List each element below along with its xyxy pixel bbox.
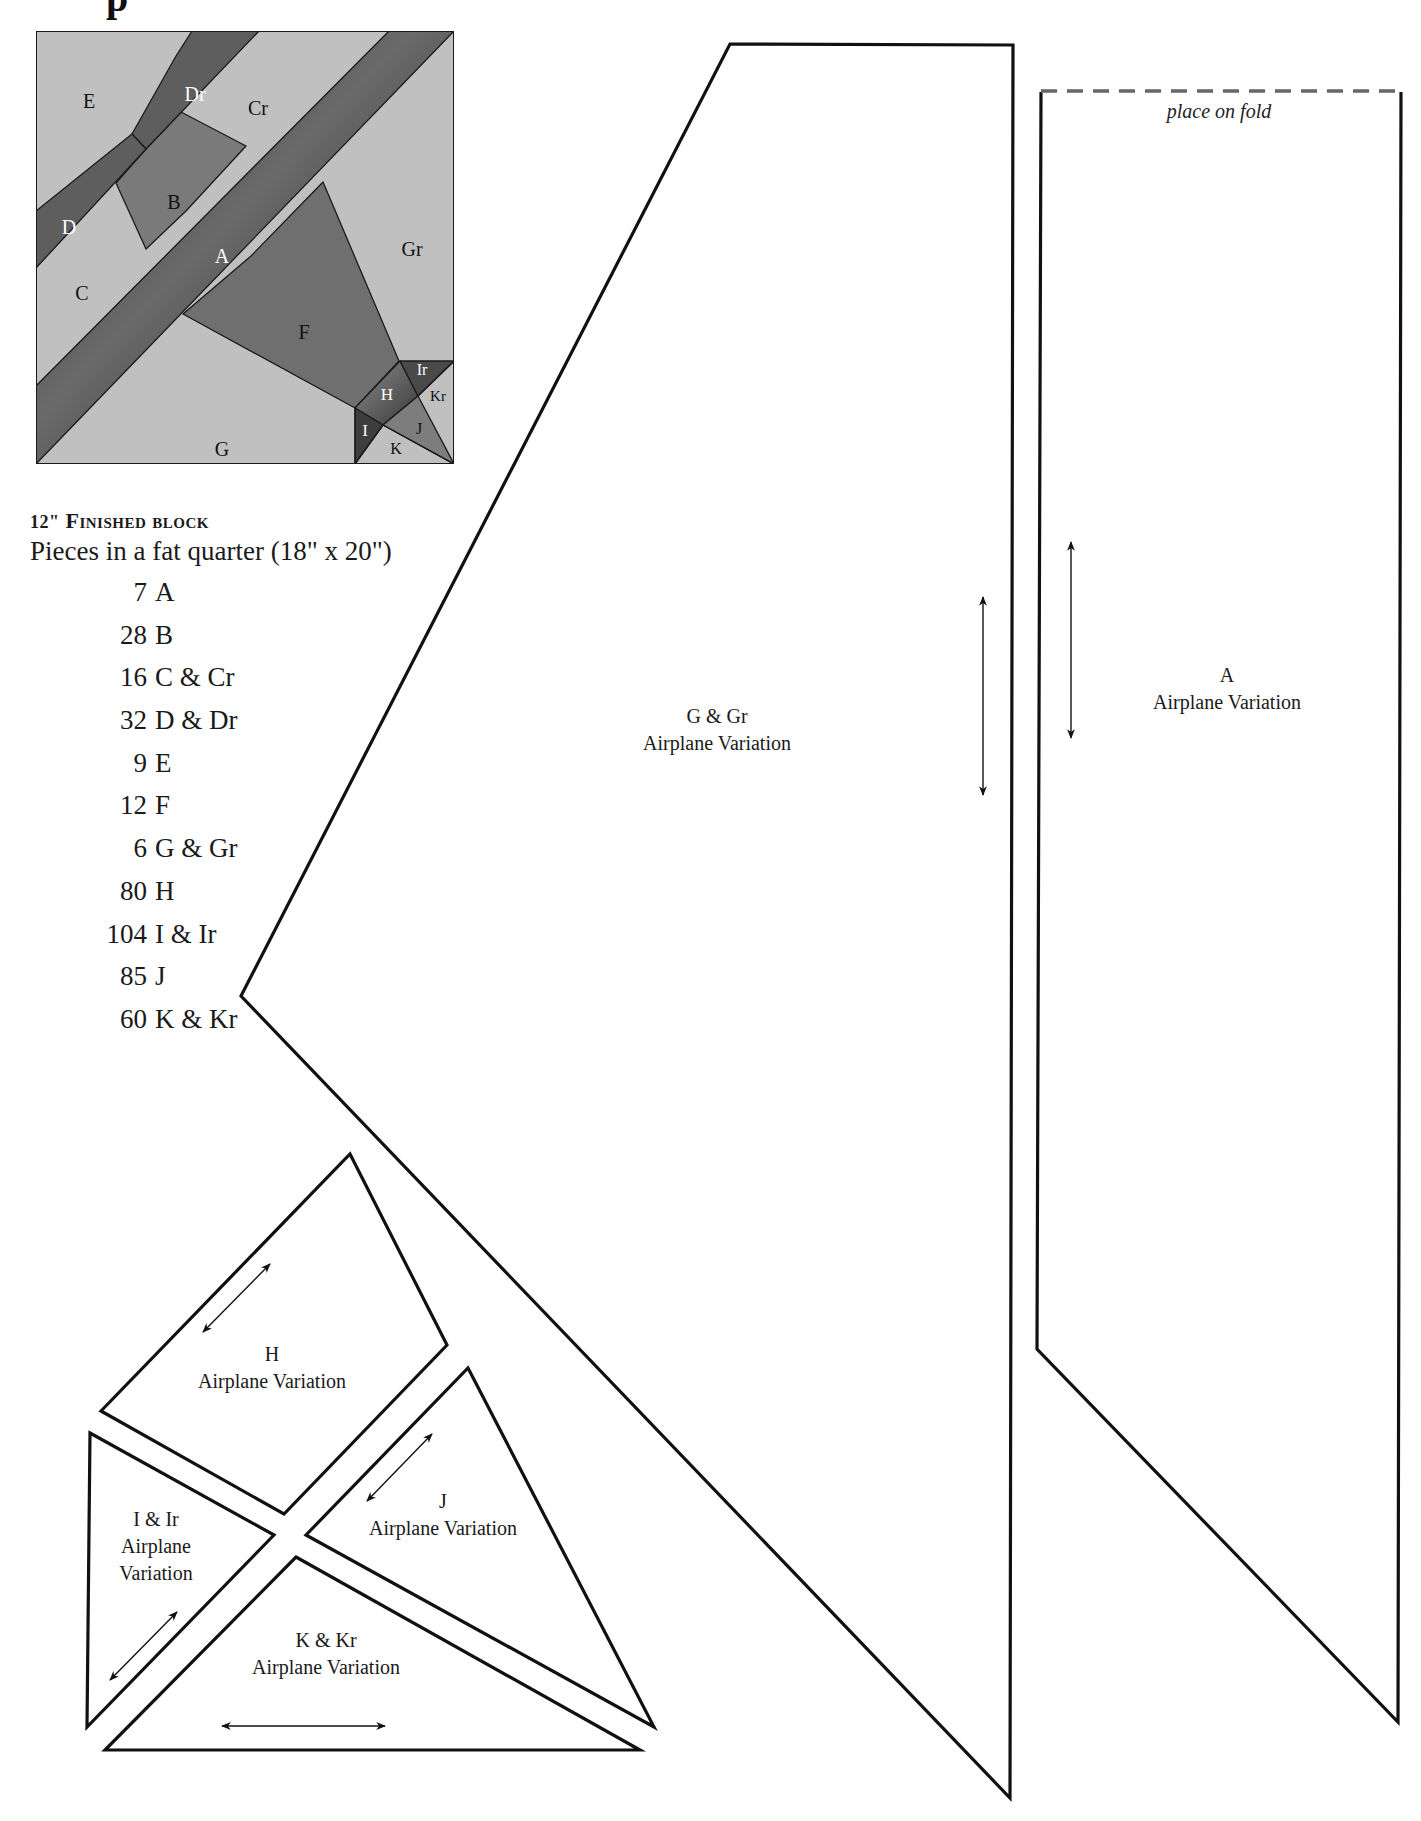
pattern-K-label: K & Kr Airplane Variation [252, 1627, 400, 1681]
label-D: D [62, 216, 76, 238]
list-item: 85J [30, 955, 392, 998]
label-H: H [381, 385, 393, 404]
pattern-H-outline [101, 1154, 447, 1514]
list-item: 28B [30, 614, 392, 657]
list-item: 12F [30, 784, 392, 827]
label-K: K [390, 440, 402, 457]
block-size-heading: 12" Finished block [30, 508, 392, 534]
pattern-A-outline [1037, 92, 1401, 1722]
list-item: 16C & Cr [30, 656, 392, 699]
label-G: G [215, 438, 229, 460]
pattern-H-label: H Airplane Variation [198, 1341, 346, 1395]
label-Cr: Cr [248, 97, 268, 119]
list-item: 7A [30, 571, 392, 614]
pattern-I-label: I & Ir Airplane Variation [119, 1506, 192, 1587]
label-Kr: Kr [430, 388, 446, 404]
pattern-J-label: J Airplane Variation [369, 1488, 517, 1542]
label-E: E [83, 90, 95, 112]
label-A: A [215, 245, 230, 267]
list-item: 104I & Ir [30, 913, 392, 956]
block-size: 12" [30, 512, 60, 532]
label-B: B [167, 191, 180, 213]
place-on-fold-note: place on fold [1167, 100, 1271, 123]
block-size-label: Finished block [66, 508, 209, 533]
fat-quarter-note: Pieces in a fat quarter (18" x 20") [30, 536, 392, 567]
label-C: C [75, 282, 88, 304]
label-Dr: Dr [184, 83, 205, 105]
pattern-A-label: A Airplane Variation [1153, 662, 1301, 716]
label-I: I [362, 421, 368, 440]
block-info: 12" Finished block Pieces in a fat quart… [30, 508, 392, 1041]
grainline-arrow-I [110, 1612, 177, 1680]
grainline-arrow-H [203, 1264, 270, 1332]
list-item: 80H [30, 870, 392, 913]
page-title-fragment: p [106, 0, 128, 18]
piece-count-list: 7A 28B 16C & Cr 32D & Dr 9E 12F 6G & Gr … [30, 571, 392, 1041]
label-Gr: Gr [401, 238, 422, 260]
label-F: F [298, 321, 309, 343]
list-item: 9E [30, 742, 392, 785]
list-item: 6G & Gr [30, 827, 392, 870]
list-item: 32D & Dr [30, 699, 392, 742]
label-J: J [416, 420, 422, 437]
pattern-G-label: G & Gr Airplane Variation [643, 703, 791, 757]
label-Ir: Ir [417, 361, 428, 378]
block-diagram: E Dr Cr B D A Gr C F G H Ir Kr I J K [36, 31, 454, 464]
list-item: 60K & Kr [30, 998, 392, 1041]
